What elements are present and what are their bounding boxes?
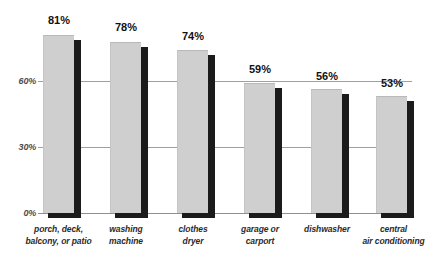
bar-bottom-shadow	[316, 213, 349, 218]
bar-face	[376, 96, 407, 213]
bar-bottom-shadow	[48, 213, 81, 218]
bar-chart: 60% 30% 0% 81% porch, deck, balcony, or …	[0, 0, 433, 268]
bar-side-shadow	[342, 94, 349, 218]
bar-bottom-shadow	[381, 213, 414, 218]
value-label-garage-or-carport: 59%	[234, 64, 286, 75]
gridline-60	[38, 81, 412, 82]
gridline-30	[38, 147, 412, 148]
bar-side-shadow	[141, 47, 148, 218]
bar-side-shadow	[407, 101, 414, 218]
category-label-line: carport	[219, 236, 301, 248]
ytick-label-30: 30%	[2, 143, 36, 152]
bar-face	[43, 35, 74, 213]
bar-face	[244, 83, 275, 213]
bar-central-air-conditioning	[376, 96, 407, 213]
bar-porch-deck-balcony-or-patio	[43, 35, 74, 213]
category-label-central-air-conditioning: central air conditioning	[354, 224, 433, 247]
bar-face	[110, 42, 141, 213]
bar-bottom-shadow	[182, 213, 215, 218]
bar-bottom-shadow	[249, 213, 282, 218]
ytick-label-0: 0%	[2, 209, 36, 218]
gridline-0-baseline	[38, 213, 412, 214]
bar-face	[177, 50, 208, 213]
ytick-label-60: 60%	[2, 77, 36, 86]
bar-bottom-shadow	[115, 213, 148, 218]
bar-washing-machine	[110, 42, 141, 213]
value-label-central-air-conditioning: 53%	[366, 78, 418, 89]
bar-clothes-dryer	[177, 50, 208, 213]
bar-dishwasher	[311, 89, 342, 213]
value-label-washing-machine: 78%	[100, 22, 152, 33]
category-label-line: air conditioning	[354, 236, 433, 248]
value-label-porch-deck-balcony-or-patio: 81%	[33, 15, 85, 26]
value-label-clothes-dryer: 74%	[167, 31, 219, 42]
bar-side-shadow	[74, 40, 81, 218]
bar-face	[311, 89, 342, 213]
bar-garage-or-carport	[244, 83, 275, 213]
bar-side-shadow	[208, 55, 215, 218]
plot-area: 60% 30% 0% 81% porch, deck, balcony, or …	[0, 0, 433, 268]
bar-side-shadow	[275, 88, 282, 218]
value-label-dishwasher: 56%	[301, 71, 353, 82]
category-label-line: central	[354, 224, 433, 236]
